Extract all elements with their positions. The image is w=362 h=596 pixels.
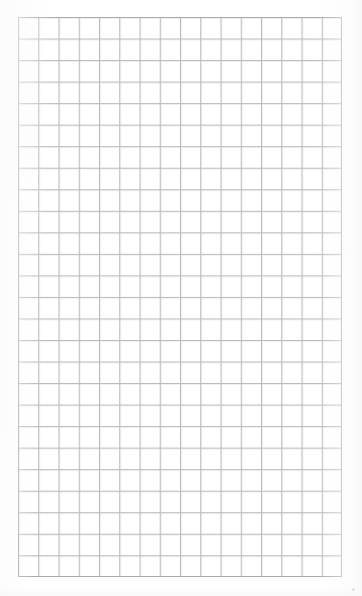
grid-paper-page bbox=[0, 0, 362, 596]
grid-ruled-area bbox=[18, 17, 342, 577]
